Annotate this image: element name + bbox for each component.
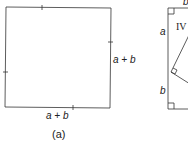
square-a — [3, 5, 113, 110]
label-bottom-side: a + b — [46, 110, 69, 121]
label-top-b: b — [183, 0, 188, 7]
label-left-a: a — [160, 26, 166, 37]
region-label-iv: IV — [176, 21, 187, 32]
diagram-canvas — [0, 0, 188, 144]
label-left-b: b — [160, 85, 166, 96]
label-right-side: a + b — [113, 54, 136, 65]
caption-a: (a) — [52, 128, 65, 140]
